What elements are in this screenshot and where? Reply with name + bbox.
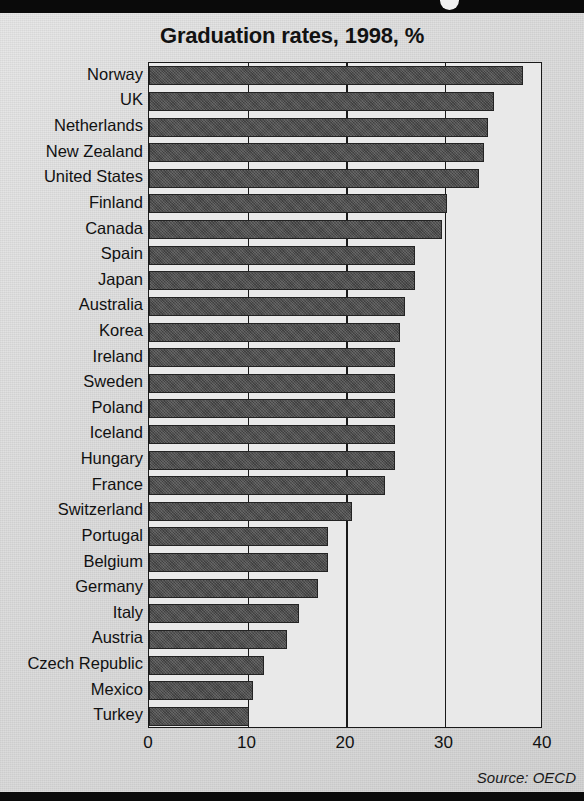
category-label-canada: Canada (0, 219, 143, 238)
chart-title: Graduation rates, 1998, % (0, 23, 584, 49)
category-label-new-zealand: New Zealand (0, 142, 143, 161)
category-label-austria: Austria (0, 628, 143, 647)
category-label-mexico: Mexico (0, 680, 143, 699)
category-label-finland: Finland (0, 193, 143, 212)
category-label-australia: Australia (0, 295, 143, 314)
bottom-black-band (0, 792, 584, 801)
top-black-band (0, 0, 584, 13)
x-tick-label-40: 40 (533, 733, 552, 753)
category-label-italy: Italy (0, 603, 143, 622)
category-label-spain: Spain (0, 244, 143, 263)
bar-chart: NorwayUKNetherlandsNew ZealandUnited Sta… (0, 0, 584, 801)
chart-overlay: NorwayUKNetherlandsNew ZealandUnited Sta… (0, 0, 584, 801)
category-label-norway: Norway (0, 65, 143, 84)
x-tick-label-0: 0 (143, 733, 152, 753)
category-label-france: France (0, 475, 143, 494)
category-label-netherlands: Netherlands (0, 116, 143, 135)
category-label-sweden: Sweden (0, 372, 143, 391)
category-label-ireland: Ireland (0, 347, 143, 366)
chart-page: Graduation rates, 1998, % NorwayUKNether… (0, 0, 584, 801)
category-label-switzerland: Switzerland (0, 500, 143, 519)
category-label-korea: Korea (0, 321, 143, 340)
category-label-poland: Poland (0, 398, 143, 417)
category-label-portugal: Portugal (0, 526, 143, 545)
category-label-iceland: Iceland (0, 423, 143, 442)
x-tick-label-30: 30 (434, 733, 453, 753)
category-label-japan: Japan (0, 270, 143, 289)
category-label-belgium: Belgium (0, 552, 143, 571)
x-tick-label-10: 10 (237, 733, 256, 753)
category-label-uk: UK (0, 90, 143, 109)
category-label-czech-republic: Czech Republic (0, 654, 143, 673)
x-tick-label-20: 20 (336, 733, 355, 753)
category-label-germany: Germany (0, 577, 143, 596)
category-label-united-states: United States (0, 167, 143, 186)
category-label-turkey: Turkey (0, 705, 143, 724)
category-label-hungary: Hungary (0, 449, 143, 468)
source-note: Source: OECD (477, 769, 576, 786)
